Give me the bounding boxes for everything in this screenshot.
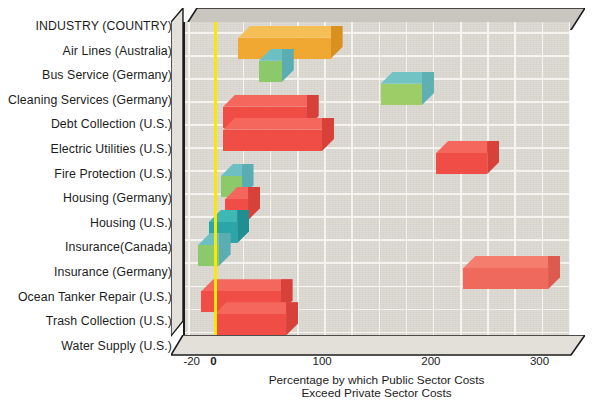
gridline-vertical [406, 22, 408, 335]
x-axis-title: Percentage by which Public Sector Costs … [183, 374, 570, 401]
bar-top-face [238, 26, 342, 38]
category-label: Air Lines (Australia) [0, 39, 178, 64]
bar-chart: INDUSTRY (COUNTRY) Air Lines (Australia)… [0, 0, 610, 401]
bar-front-face [223, 130, 322, 151]
bar-side-face [322, 118, 334, 151]
category-axis-labels: INDUSTRY (COUNTRY) Air Lines (Australia)… [0, 14, 178, 358]
bar-side-face [548, 256, 560, 289]
bar-side-face [422, 72, 434, 105]
bar-front-face [436, 153, 487, 174]
bar-top-face [223, 118, 334, 130]
gridline-vertical [188, 22, 190, 335]
category-label: Insurance(Canada) [0, 235, 178, 260]
category-label: Electric Utilities (U.S.) [0, 137, 178, 162]
bar-front-face [463, 268, 548, 289]
gridline-vertical [324, 22, 326, 335]
chart-header-label: INDUSTRY (COUNTRY) [0, 14, 178, 39]
plot-inner [185, 22, 570, 335]
bar-top-face [463, 256, 560, 268]
bar-side-face [487, 141, 499, 174]
bar-side-face [282, 49, 294, 82]
bar-ocean-tanker-repair-u-s [463, 256, 560, 289]
category-label: Housing (Germany) [0, 186, 178, 211]
bar-top-face [214, 302, 298, 314]
x-axis-title-line2: Exceed Private Sector Costs [183, 387, 570, 400]
category-label: Cleaning Services (Germany) [0, 88, 178, 113]
bar-front-face [259, 61, 282, 82]
category-label: Water Supply (U.S.) [0, 334, 178, 359]
bar-front-face [381, 84, 422, 105]
gridline-vertical [351, 22, 353, 335]
bar-side-face [237, 210, 249, 243]
category-label: Debt Collection (U.S.) [0, 112, 178, 137]
x-tick-label: 200 [421, 355, 440, 367]
zero-reference-line [214, 22, 217, 335]
gridline-vertical [460, 22, 462, 335]
bar-front-face [214, 314, 286, 335]
category-label: Fire Protection (U.S.) [0, 162, 178, 187]
gridline-horizontal [185, 78, 570, 80]
category-label: Ocean Tanker Repair (U.S.) [0, 285, 178, 310]
bar-top-face [223, 95, 319, 107]
gridline-vertical [379, 22, 381, 335]
gridline-vertical [569, 22, 570, 335]
x-tick-label: -20 [183, 355, 200, 367]
chart-floor-panel [171, 335, 585, 357]
x-tick-label: 0 [210, 355, 216, 367]
bar-fire-protection-u-s [436, 141, 499, 174]
bar-bus-service-germany [259, 49, 294, 82]
gridline-vertical [433, 22, 435, 335]
bar-water-supply-u-s [214, 302, 298, 335]
bar-electric-utilities-u-s [223, 118, 334, 151]
category-label: Housing (U.S.) [0, 211, 178, 236]
category-label: Bus Service (Germany) [0, 63, 178, 88]
x-axis-title-line1: Percentage by which Public Sector Costs [183, 374, 570, 387]
category-label: Trash Collection (U.S.) [0, 309, 178, 334]
gridline-vertical [297, 22, 299, 335]
bar-side-face [331, 26, 343, 59]
x-tick-label: 300 [530, 355, 549, 367]
bar-cleaning-services-germany [381, 72, 434, 105]
plot-area [183, 22, 570, 335]
bar-side-face [219, 233, 231, 266]
bar-side-face [286, 302, 298, 335]
x-tick-label: 100 [313, 355, 332, 367]
bar-side-face [248, 187, 260, 220]
category-label: Insurance (Germany) [0, 260, 178, 285]
